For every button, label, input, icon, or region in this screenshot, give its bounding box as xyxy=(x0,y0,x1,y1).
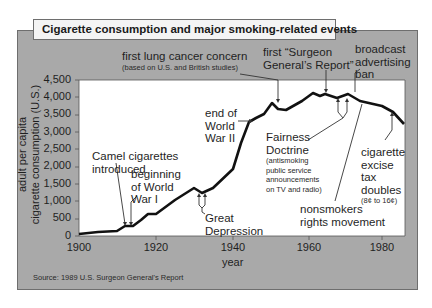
annotation-ww1: beginning of World War I xyxy=(131,168,181,206)
annotation-lung-cancer: first lung cancer concern (based on U.S.… xyxy=(122,50,247,72)
annotation-broadcast-ban: broadcast advertising ban xyxy=(355,43,411,81)
annotation-great-depression: Great Depression xyxy=(205,212,263,237)
annotation-surgeon-general: first “Surgeon General’s Report” xyxy=(263,46,354,71)
annotation-nonsmokers-rights: nonsmokers rights movement xyxy=(300,203,385,228)
annotation-excise-tax: cigarette excise tax doubles (8¢ to 16¢) xyxy=(361,146,405,206)
annotation-ww2: end of World War II xyxy=(205,107,237,145)
annotation-fairness-doctrine: Fairness Doctrine (antismoking public se… xyxy=(266,131,322,194)
